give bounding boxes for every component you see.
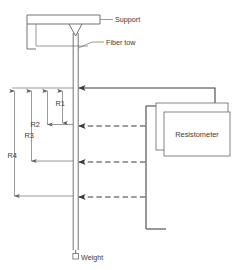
fiber-tow-leader-line	[79, 42, 104, 48]
weight-label: Weight	[81, 253, 103, 262]
resistometer-label: Resistometer	[175, 130, 219, 139]
weight-symbol	[73, 250, 79, 259]
dimension-r4-label: R4	[8, 151, 17, 160]
resistometer-unit[interactable]: Resistometer	[164, 112, 230, 156]
dimension-r2: R2	[31, 91, 74, 129]
figure-container: Support Fiber tow Weight R4 R3 R2 R1	[0, 0, 239, 270]
dimension-r1-label: R1	[56, 99, 65, 108]
dimension-r1: R1	[56, 91, 65, 123]
dimension-r3-label: R3	[25, 131, 34, 140]
fiber-tow-label: Fiber tow	[106, 38, 136, 47]
support-bracket	[27, 15, 100, 49]
dimension-r2-label: R2	[31, 120, 40, 129]
schematic-diagram: Support Fiber tow Weight R4 R3 R2 R1	[0, 0, 239, 270]
fiber-tow-column	[73, 33, 78, 250]
fiber-clamp-funnel	[69, 24, 82, 36]
support-label: Support	[115, 15, 140, 24]
